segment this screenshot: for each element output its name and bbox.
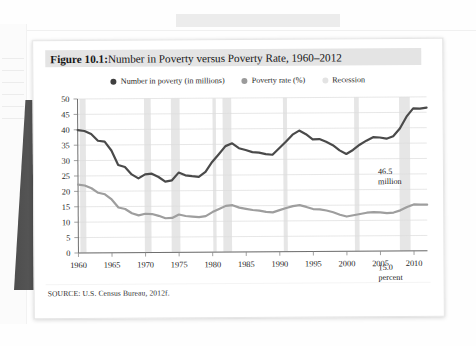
- figure-source: SOURCE: U.S. Census Bureau, 2012f.: [48, 288, 170, 298]
- svg-text:1985: 1985: [238, 260, 255, 269]
- figure-title-text: Number in Poverty versus Poverty Rate, 1…: [108, 51, 342, 64]
- legend-item-recession[interactable]: Recession: [322, 75, 365, 84]
- annotation-number-value: 46.5: [378, 167, 402, 177]
- svg-text:45: 45: [61, 110, 69, 119]
- legend-label-recession: Recession: [332, 75, 365, 84]
- svg-text:35: 35: [61, 141, 69, 150]
- svg-text:10: 10: [62, 218, 70, 227]
- svg-text:1965: 1965: [104, 261, 121, 270]
- legend-swatch-poverty-rate: [242, 77, 248, 83]
- legend-item-number-in-poverty[interactable]: Number in poverty (in millions): [111, 76, 225, 86]
- svg-text:1990: 1990: [271, 260, 288, 269]
- legend-label-number-in-poverty: Number in poverty (in millions): [121, 76, 225, 86]
- page-top-rule: [0, 30, 476, 31]
- svg-text:20: 20: [62, 187, 70, 196]
- chart-plot-area: 0510152025303540455019601965197019751980…: [33, 91, 443, 288]
- legend-item-poverty-rate[interactable]: Poverty rate (%): [242, 76, 306, 85]
- series-line-1: [78, 182, 427, 218]
- figure-title: Figure 10.1: Number in Poverty versus Po…: [45, 48, 421, 67]
- legend-label-poverty-rate: Poverty rate (%): [252, 76, 306, 85]
- figure-card: Figure 10.1: Number in Poverty versus Po…: [32, 38, 445, 320]
- svg-text:25: 25: [62, 172, 70, 181]
- poverty-line-chart: 0510152025303540455019601965197019751980…: [33, 91, 443, 288]
- page-text-smudge: [176, 14, 340, 27]
- svg-text:1960: 1960: [70, 261, 87, 270]
- svg-text:15: 15: [62, 203, 70, 212]
- chart-legend: Number in poverty (in millions) Poverty …: [33, 75, 442, 86]
- svg-text:0: 0: [66, 249, 70, 258]
- svg-text:1995: 1995: [305, 259, 322, 268]
- svg-text:2000: 2000: [339, 259, 356, 268]
- svg-text:30: 30: [61, 157, 69, 166]
- svg-text:5: 5: [66, 234, 70, 243]
- svg-text:2010: 2010: [406, 259, 423, 268]
- annotation-rate-value: 15.0: [379, 263, 403, 273]
- page-margin-rules: [2, 58, 24, 148]
- annotation-number-unit: million: [378, 177, 402, 187]
- legend-swatch-number-in-poverty: [111, 78, 117, 84]
- figure-number-label: Figure 10.1:: [50, 52, 108, 64]
- svg-text:1970: 1970: [137, 261, 154, 270]
- svg-text:1975: 1975: [171, 260, 188, 269]
- annotation-poverty-rate: 15.0 percent: [379, 263, 403, 283]
- svg-text:40: 40: [61, 126, 69, 135]
- svg-text:50: 50: [61, 95, 69, 104]
- legend-swatch-recession: [322, 77, 328, 83]
- svg-text:1980: 1980: [204, 260, 221, 269]
- annotation-number-in-poverty: 46.5 million: [378, 167, 402, 187]
